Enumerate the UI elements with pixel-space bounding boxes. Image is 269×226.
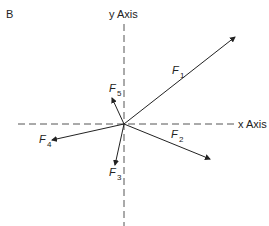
force-vector-f1 <box>124 37 235 124</box>
force-vector-f3 <box>115 124 124 165</box>
x-axis-label: x Axis <box>238 118 267 130</box>
force-label-f3: F 3 <box>109 166 122 182</box>
y-axis-label: y Axis <box>109 8 138 20</box>
svg-text:F: F <box>39 133 47 145</box>
svg-text:F: F <box>109 82 117 94</box>
force-diagram: B y Axis x Axis F 1 F 2 F 3 F 4 F 5 <box>0 0 269 226</box>
force-label-f5: F 5 <box>109 82 122 98</box>
svg-text:2: 2 <box>179 135 184 144</box>
svg-text:3: 3 <box>117 173 122 182</box>
svg-text:4: 4 <box>47 140 52 149</box>
svg-text:F: F <box>172 64 180 76</box>
force-label-f1: F 1 <box>172 64 185 80</box>
force-vector-f4 <box>52 124 124 140</box>
svg-text:1: 1 <box>180 71 185 80</box>
force-label-f4: F 4 <box>39 133 52 149</box>
force-vector-f5 <box>112 98 124 124</box>
force-vector-f2 <box>124 124 210 159</box>
panel-label: B <box>6 8 13 20</box>
svg-text:F: F <box>109 166 117 178</box>
svg-text:5: 5 <box>117 89 122 98</box>
svg-text:F: F <box>171 128 179 140</box>
force-label-f2: F 2 <box>171 128 184 144</box>
